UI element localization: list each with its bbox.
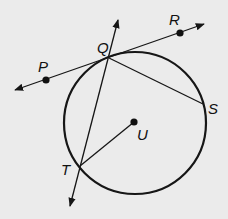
center-u-dot [130,118,137,125]
geometry-diagram: P Q R S T U [0,0,228,219]
label-s: S [208,100,218,117]
label-p: P [38,58,48,75]
point-r-dot [176,29,183,36]
secant-line-qt [70,20,118,206]
diagram-canvas: P Q R S T U [0,0,228,219]
label-u: U [137,126,148,143]
label-q: Q [97,39,109,56]
label-r: R [169,11,180,28]
point-p-dot [42,76,49,83]
chord-qs [109,58,203,104]
label-t: T [61,161,72,178]
radius-ut [80,122,134,166]
